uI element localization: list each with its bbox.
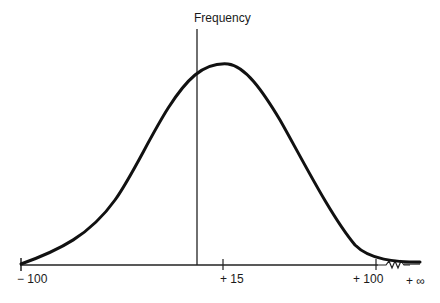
- tick-label-infinity: + ∞: [406, 274, 425, 288]
- y-axis-label: Frequency: [194, 11, 251, 25]
- tick-label-plus15: + 15: [220, 272, 244, 286]
- distribution-diagram: [0, 0, 440, 303]
- tick-label-plus100: + 100: [353, 272, 383, 286]
- distribution-curve: [21, 64, 420, 264]
- tick-label-minus100: − 100: [17, 272, 47, 286]
